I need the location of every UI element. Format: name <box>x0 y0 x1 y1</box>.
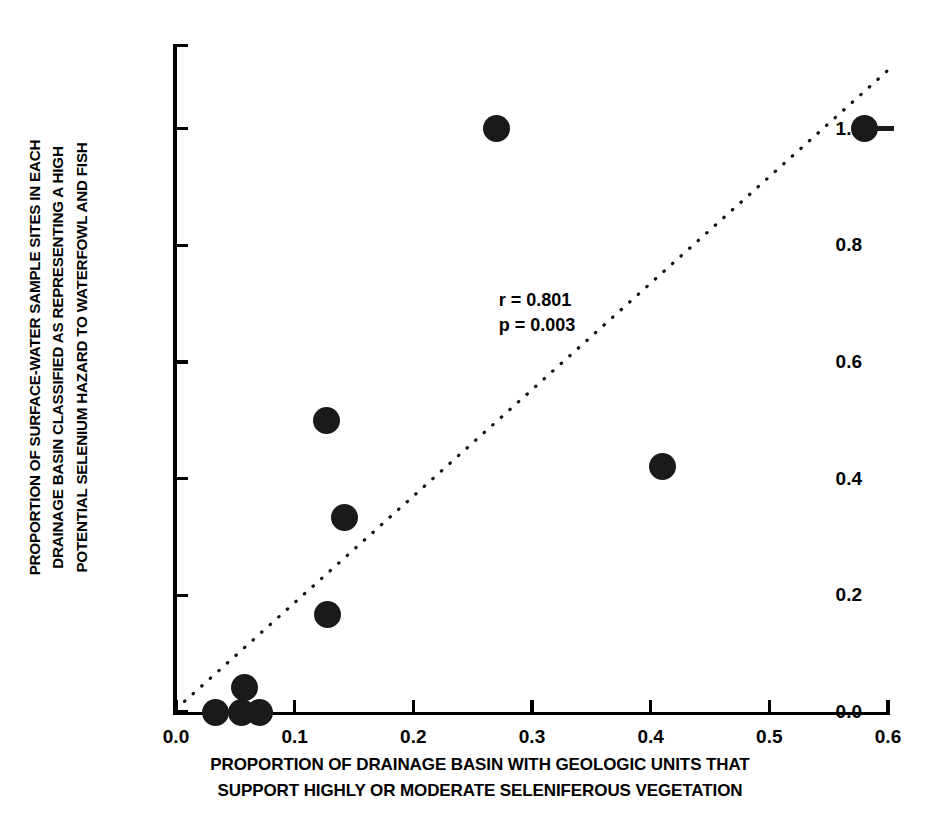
x-tick-label: 0.2 <box>400 726 426 748</box>
x-tick-label: 0.0 <box>163 726 189 748</box>
x-tick-label: 0.1 <box>281 726 307 748</box>
y-axis-title-line-1: PROPORTION OF SURFACE-WATER SAMPLE SITES… <box>23 140 46 576</box>
x-tick-label: 0.3 <box>519 726 545 748</box>
x-axis-title-line-2: SUPPORT HIGHLY OR MODERATE SELENIFEROUS … <box>100 778 860 804</box>
statistics-annotation: r = 0.801 p = 0.003 <box>499 288 576 339</box>
data-point <box>483 115 510 142</box>
x-tick-label: 0.6 <box>875 726 901 748</box>
data-point-marker-tick <box>873 126 894 131</box>
x-tick-label: 0.5 <box>756 726 782 748</box>
x-axis-title-line-1: PROPORTION OF DRAINAGE BASIN WITH GEOLOG… <box>100 752 860 778</box>
x-tick-label: 0.4 <box>637 726 663 748</box>
scatter-plot-figure: PROPORTION OF SURFACE-WATER SAMPLE SITES… <box>0 0 930 837</box>
y-axis-title-line-3: POTENTIAL SELENIUM HAZARD TO WATERFOWL A… <box>70 142 93 572</box>
regression-trendline <box>176 44 888 712</box>
data-point <box>246 699 273 726</box>
y-axis-title-line-2: DRAINAGE BASIN CLASSIFIED AS REPRESENTIN… <box>46 146 69 568</box>
x-axis-title: PROPORTION OF DRAINAGE BASIN WITH GEOLOG… <box>100 752 860 804</box>
y-axis-title: PROPORTION OF SURFACE-WATER SAMPLE SITES… <box>0 0 116 720</box>
data-point <box>313 407 340 434</box>
pvalue-value: p = 0.003 <box>499 313 576 339</box>
correlation-value: r = 0.801 <box>499 288 576 314</box>
data-point <box>202 699 229 726</box>
plot-area: 0.00.20.40.60.81.0 0.00.10.20.30.40.50.6… <box>176 44 888 712</box>
